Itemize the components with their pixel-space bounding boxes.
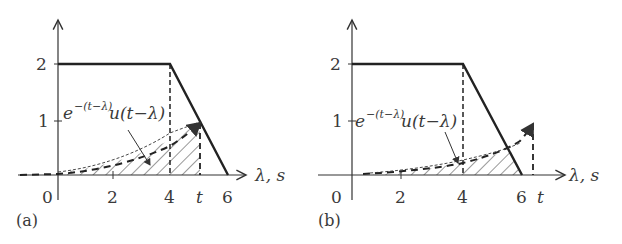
x-tick-label-0-b: 0: [331, 187, 342, 207]
curve-label-base-a: e: [63, 103, 73, 123]
curve-label-rest-b: u(t−λ): [401, 111, 457, 131]
x-tick-label-6-b: 6: [516, 187, 527, 207]
y-tick-label-1-b: 1: [332, 111, 343, 131]
y-tick-label-1-a: 1: [38, 111, 49, 131]
curve-label-rest-a: u(t−λ): [109, 103, 165, 123]
x-tick-label-4-a: 4: [164, 187, 175, 207]
panel-a: 2 1 0 2 4 t 6 λ, s e −(t−λ) u(t−λ) (a): [16, 20, 286, 230]
x-axis-label-a: λ, s: [254, 165, 286, 185]
x-tick-label-2-a: 2: [107, 187, 118, 207]
curve-label-base-b: e: [355, 111, 365, 131]
x-tick-label-2-b: 2: [395, 187, 406, 207]
label-pointer-b: [445, 132, 458, 163]
curve-label-exp-b: −(t−λ): [366, 108, 404, 121]
convolution-figure: 2 1 0 2 4 t 6 λ, s e −(t−λ) u(t−λ) (a): [0, 0, 622, 244]
curve-label-exp-a: −(t−λ): [74, 100, 112, 113]
x-axis-label-b: λ, s: [568, 165, 600, 185]
x-tick-label-4-b: 4: [457, 187, 468, 207]
x-tick-label-6-a: 6: [222, 187, 233, 207]
x-tick-label-t-b: t: [537, 187, 544, 207]
panel-b: 2 1 0 2 4 6 t λ, s e −(t−λ) u(t−λ) (b): [318, 20, 600, 230]
x-tick-label-0-a: 0: [42, 187, 53, 207]
panel-label-b: (b): [318, 211, 341, 230]
y-tick-label-2-a: 2: [36, 54, 47, 74]
panel-label-a: (a): [16, 211, 38, 230]
y-tick-label-2-b: 2: [330, 54, 341, 74]
x-tick-label-t-a: t: [196, 187, 203, 207]
